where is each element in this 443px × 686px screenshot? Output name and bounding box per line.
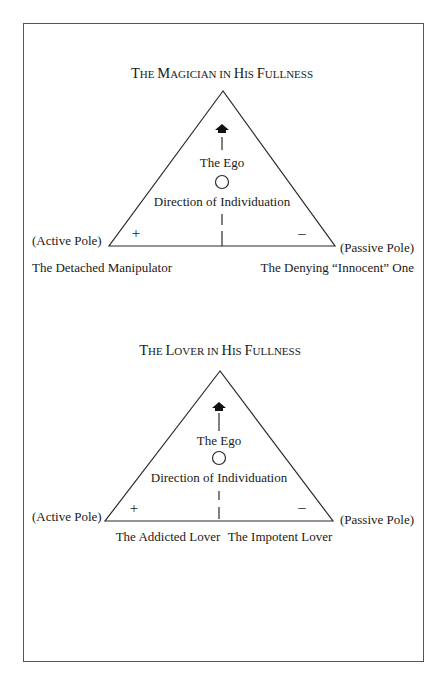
right-shadow-label: The Impotent Lover: [228, 529, 333, 544]
minus-sign: –: [297, 225, 306, 241]
diagram-canvas: THE MAGICIAN IN HIS FULLNESS The Ego Dir…: [0, 0, 443, 686]
lover-ego-label: The Ego: [197, 433, 241, 448]
plus-sign: +: [132, 225, 140, 241]
right-shadow-label: The Denying “Innocent” One: [261, 260, 415, 275]
lover-title: THE LOVER IN HIS FULLNESS: [139, 342, 301, 358]
plus-sign: +: [130, 500, 138, 516]
magician-ego-label: The Ego: [200, 155, 244, 170]
magician-individuation-label: Direction of Individuation: [154, 194, 291, 209]
up-arrow-icon: [212, 402, 226, 411]
lover-individuation-label: Direction of Individuation: [151, 470, 288, 485]
up-arrow-icon: [215, 124, 229, 133]
minus-sign: –: [297, 499, 306, 515]
magician-title: THE MAGICIAN IN HIS FULLNESS: [131, 65, 313, 81]
ego-circle-icon: [216, 176, 229, 189]
left-shadow-label: The Detached Manipulator: [32, 260, 173, 275]
active-pole-label: (Active Pole): [32, 509, 102, 524]
left-shadow-label: The Addicted Lover: [116, 529, 221, 544]
lover-diagram: THE LOVER IN HIS FULLNESS The Ego Direct…: [32, 342, 414, 544]
ego-circle-icon: [213, 452, 226, 465]
magician-diagram: THE MAGICIAN IN HIS FULLNESS The Ego Dir…: [32, 65, 414, 275]
passive-pole-label: (Passive Pole): [340, 240, 414, 255]
active-pole-label: (Active Pole): [32, 233, 102, 248]
passive-pole-label: (Passive Pole): [340, 512, 414, 527]
